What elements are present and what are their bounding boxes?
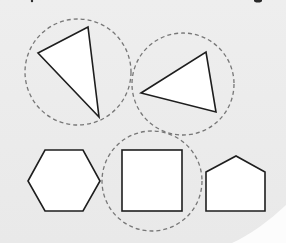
triangle-2	[141, 52, 216, 112]
hexagon	[28, 150, 100, 211]
shapes-diagram	[0, 0, 286, 243]
speck-mark	[31, 0, 33, 2]
speck-mark	[254, 0, 262, 3]
triangle-1	[38, 27, 99, 117]
pentagon	[206, 156, 265, 211]
square	[122, 150, 182, 211]
figure-canvas	[0, 0, 286, 243]
